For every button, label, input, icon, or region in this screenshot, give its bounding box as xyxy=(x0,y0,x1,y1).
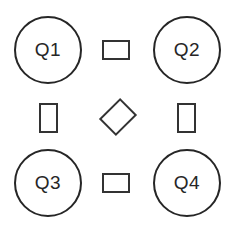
node-q1: Q1 xyxy=(14,16,82,84)
node-q4-label: Q4 xyxy=(174,172,200,194)
connector-right-rect xyxy=(177,103,196,133)
node-q1-label: Q1 xyxy=(35,39,61,61)
node-q4: Q4 xyxy=(153,149,221,217)
connector-top-rect xyxy=(102,40,130,60)
node-q3-label: Q3 xyxy=(35,172,61,194)
node-q3: Q3 xyxy=(14,149,82,217)
node-q2-label: Q2 xyxy=(174,39,200,61)
connector-bottom-rect xyxy=(102,173,130,193)
connector-left-rect xyxy=(39,103,58,133)
quadrant-diagram: Q1 Q2 Q3 Q4 xyxy=(0,0,242,233)
connector-center-diamond xyxy=(99,98,137,136)
node-q2: Q2 xyxy=(153,16,221,84)
